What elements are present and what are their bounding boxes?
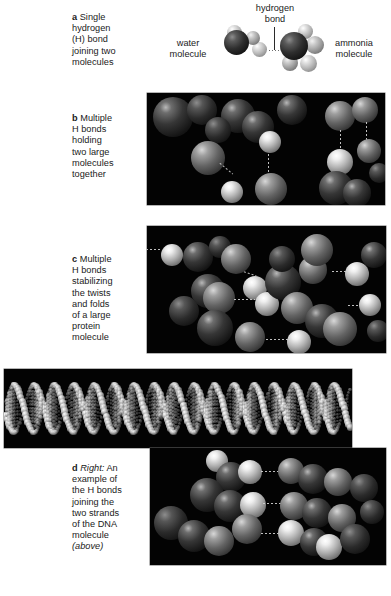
photo-d-hbond (262, 502, 282, 505)
dna-base-pair-atom (60, 408, 62, 410)
dna-base-pair-atom (60, 405, 62, 407)
water-label-line-1: water (177, 38, 199, 48)
photo-panel-d (150, 448, 386, 565)
dna-base-pair-atom (138, 419, 140, 421)
photo-d-atom (302, 498, 332, 528)
caption-a-line-4: joining two (72, 46, 116, 56)
photo-c-hydrogen (345, 262, 369, 286)
photo-b-atom (205, 117, 231, 143)
photo-c-atom (169, 296, 199, 326)
photo-b-atom (255, 173, 287, 205)
dna-base-pair-atom (346, 401, 348, 403)
photo-panel-c (147, 226, 386, 353)
dna-backbone-atom (79, 419, 82, 422)
dna-base-pair-atom (60, 412, 62, 414)
dna-base-pair-atom (297, 391, 300, 394)
photo-b-hbond (365, 121, 368, 141)
dna-base-pair-atom (339, 396, 341, 398)
photo-c-hbond (233, 298, 255, 301)
photo-c-atom (235, 322, 265, 352)
ammonia-label-line-2: molecule (336, 49, 373, 59)
water-oxygen-atom (224, 30, 249, 55)
dna-base-pair-atom (58, 414, 61, 417)
dna-base-pair-atom (19, 396, 21, 398)
dna-base-pair-atom (297, 418, 300, 421)
caption-a-line-2: hydrogen (72, 23, 110, 33)
dna-backbone-atom (339, 419, 342, 422)
photo-c-atom (323, 312, 357, 346)
dna-backbone-atom (347, 391, 351, 395)
ammonia-label-line-1: ammonia (335, 38, 373, 48)
dna-base-pair-atom (133, 427, 136, 430)
photo-c-atom (367, 320, 386, 342)
dna-base-pair-atom (239, 412, 244, 417)
dna-base-pair-atom (138, 398, 140, 400)
dna-base-pair-atom (300, 416, 302, 418)
photo-b-atom (153, 97, 193, 137)
dna-base-pair-atom (58, 417, 61, 420)
dna-base-pair-atom (177, 396, 180, 399)
photo-c-atom (197, 310, 233, 346)
dna-base-pair-atom (138, 415, 140, 417)
caption-panel-d: d Right: An example of the H bonds joini… (72, 463, 144, 553)
photo-d-atom (360, 500, 384, 524)
photo-d-atom (350, 474, 378, 502)
caption-d-line-5: two strands (72, 508, 119, 518)
dna-backbone-atom (99, 420, 102, 423)
photo-b-hydrogen (221, 181, 243, 203)
dna-base-pair-atom (177, 419, 180, 422)
caption-panel-c: c Multiple H bonds stabilizing the twist… (72, 254, 140, 344)
photo-d-hydrogen (316, 534, 342, 560)
photo-b-hbond (267, 153, 270, 175)
dna-base-pair-atom (346, 404, 348, 406)
molecule-diagram-panel-a (222, 22, 334, 84)
caption-d-line-3: the H bonds (72, 485, 122, 495)
photo-c-atom (221, 244, 251, 274)
dna-backbone-atom (157, 424, 161, 428)
dna-base-pair-atom (99, 412, 101, 414)
photo-b-atom (325, 101, 355, 131)
dna-base-pair-atom (174, 387, 177, 390)
caption-d-line-2: example of (72, 474, 117, 484)
dna-base-pair-atom (99, 401, 101, 403)
photo-b-hbond (339, 129, 342, 151)
dna-base-pair-atom (336, 392, 339, 395)
caption-panel-a: a Single hydrogen (H) bond joining two m… (72, 12, 138, 68)
ammonia-nitrogen-atom (280, 32, 308, 60)
caption-b-line-5: molecules (72, 158, 114, 168)
dna-base-pair-atom (21, 409, 23, 411)
caption-c-line-8: molecule (72, 332, 109, 342)
dna-base-pair-atom (346, 408, 348, 410)
water-label-line-2: molecule (170, 49, 207, 59)
dna-base-pair-atom (317, 420, 321, 424)
dna-base-pair-atom (300, 412, 302, 414)
caption-d-line-7: molecule (72, 530, 109, 540)
dna-base-pair-atom (60, 402, 62, 404)
photo-b-atom (343, 179, 371, 205)
dna-base-pair-atom (158, 413, 163, 418)
dna-backbone-atom (348, 388, 352, 392)
dna-helix-render (4, 369, 352, 448)
dna-base-pair-atom (153, 427, 157, 431)
caption-a-line-3: (H) bond (72, 34, 108, 44)
photo-c-hbond (147, 248, 161, 251)
dna-base-pair-atom (261, 406, 263, 408)
dna-base-pair-atom (341, 404, 343, 406)
label-water-molecule: water molecule (155, 38, 221, 60)
dna-base-pair-atom (197, 417, 201, 421)
photo-c-atom (203, 282, 235, 314)
dna-backbone-atom (138, 423, 142, 427)
dna-base-pair-atom (55, 425, 58, 428)
figure-hydrogen-bonds: a Single hydrogen (H) bond joining two m… (0, 0, 391, 596)
dna-base-pair-atom (216, 424, 219, 427)
photo-b-atom (352, 97, 378, 123)
photo-c-atom (361, 242, 386, 268)
dna-base-pair-atom (300, 406, 302, 408)
dna-base-pair-atom (213, 427, 216, 430)
photo-dna-helix-strip (4, 369, 352, 448)
photo-panel-b (147, 93, 385, 205)
caption-d-line-4: joining the (72, 497, 114, 507)
dna-base-pair-atom (119, 410, 124, 415)
caption-a-line-1: Single (80, 12, 106, 22)
photo-b-atom (277, 95, 307, 125)
